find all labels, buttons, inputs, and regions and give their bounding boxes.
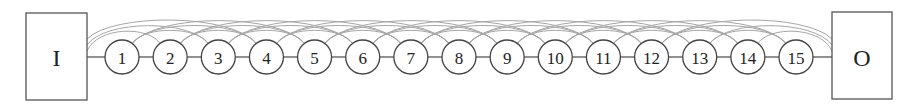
- node-label: 13: [691, 49, 708, 68]
- node-label: 10: [547, 49, 564, 68]
- node-8: 8: [442, 40, 476, 74]
- node-label: 14: [739, 49, 757, 68]
- node-label: 9: [503, 49, 512, 68]
- node-14: 14: [731, 40, 765, 74]
- node-label: 7: [407, 49, 416, 68]
- node-label: 3: [214, 49, 223, 68]
- node-12: 12: [635, 40, 669, 74]
- node-13: 13: [683, 40, 717, 74]
- input-box: I: [26, 13, 87, 100]
- node-2: 2: [153, 40, 187, 74]
- node-label: 6: [358, 49, 367, 68]
- output-label: O: [853, 45, 870, 71]
- node-label: 4: [262, 49, 271, 68]
- node-label: 2: [166, 49, 175, 68]
- input-label: I: [53, 45, 61, 71]
- node-label: 5: [310, 49, 319, 68]
- node-15: 15: [779, 40, 813, 74]
- node-11: 11: [586, 40, 620, 74]
- node-3: 3: [201, 40, 235, 74]
- node-7: 7: [394, 40, 428, 74]
- node-1: 1: [105, 40, 139, 74]
- node-label: 12: [643, 49, 660, 68]
- node-6: 6: [346, 40, 380, 74]
- node-label: 11: [595, 49, 611, 68]
- node-label: 8: [455, 49, 464, 68]
- node-9: 9: [490, 40, 524, 74]
- node-label: 1: [118, 49, 127, 68]
- node-10: 10: [538, 40, 572, 74]
- node-5: 5: [298, 40, 332, 74]
- node-label: 15: [788, 49, 805, 68]
- output-box: O: [832, 12, 892, 99]
- node-chain: 123456789101112131415: [105, 40, 813, 74]
- chain-diagram: I O 123456789101112131415: [0, 0, 917, 109]
- node-4: 4: [249, 40, 283, 74]
